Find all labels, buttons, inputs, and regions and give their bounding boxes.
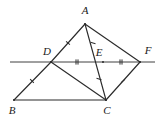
vertex-dot-e (102, 61, 104, 63)
geometry-figure: ABCDEF (0, 0, 165, 124)
tick-CF-mark (121, 79, 125, 82)
vertex-label-a: A (81, 4, 89, 16)
segment-dc (51, 62, 106, 100)
tick-EC (96, 78, 101, 79)
tick-AE-mark (90, 42, 95, 43)
geometry-canvas: ABCDEF (0, 0, 165, 124)
vertex-label-b: B (9, 104, 16, 116)
vertex-dot-c (105, 99, 107, 101)
vertex-dot-d (50, 61, 52, 63)
tick-EC-mark (96, 78, 101, 79)
tick-CF (121, 79, 125, 82)
vertex-dot-b (13, 99, 15, 101)
vertex-label-c: C (103, 104, 111, 116)
vertex-dot-f (139, 61, 141, 63)
vertex-label-e: E (95, 46, 103, 58)
vertex-dot-a (84, 23, 86, 25)
vertex-label-d: D (42, 45, 51, 57)
vertex-label-f: F (144, 44, 152, 56)
tick-AE (90, 42, 95, 43)
